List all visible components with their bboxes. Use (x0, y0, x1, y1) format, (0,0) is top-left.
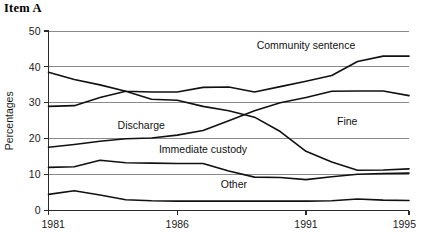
y-tick-label: 30 (29, 96, 41, 108)
y-tick-labels: 01020304050 (29, 25, 41, 217)
x-tick-label: 1986 (166, 218, 190, 230)
chart-figure: Item A 01020304050 1981198619911995 Comm… (0, 0, 426, 244)
series-line-other (49, 191, 410, 201)
x-tick-labels: 1981198619911995 (42, 218, 417, 230)
y-axis-title-text: Percentages (3, 91, 15, 150)
series-label-other: Other (221, 178, 248, 190)
series-label-discharge: Discharge (118, 119, 165, 131)
y-axis-title: Percentages (3, 91, 15, 150)
series-label-immediate-custody: Immediate custody (159, 143, 248, 155)
y-tick-label: 20 (29, 132, 41, 144)
series-label-community-sentence: Community sentence (257, 39, 356, 51)
y-tick-label: 0 (35, 204, 41, 216)
x-tick-label: 1995 (393, 218, 417, 230)
x-tick-label: 1991 (294, 218, 318, 230)
series-annotations: Community sentenceFineDischargeImmediate… (113, 39, 361, 192)
y-tick-label: 40 (29, 61, 41, 73)
y-tick-label: 10 (29, 168, 41, 180)
series-label-fine: Fine (337, 115, 358, 127)
x-tick-label: 1981 (42, 218, 66, 230)
series-line-fine (49, 56, 410, 92)
line-chart: 01020304050 1981198619911995 Community s… (0, 0, 426, 244)
y-tick-label: 50 (29, 25, 41, 37)
